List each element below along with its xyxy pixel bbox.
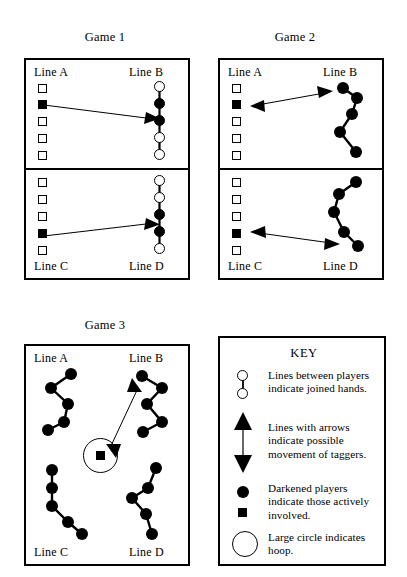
- player-circle-active: [350, 176, 362, 188]
- key-entry-3-text: Darkened players indicate those actively…: [268, 482, 386, 522]
- player-circle-active: [65, 368, 77, 380]
- player-circle-active: [42, 424, 54, 436]
- player-circle-active: [62, 516, 74, 528]
- player-circle-active: [328, 206, 340, 218]
- player-circle-active: [58, 416, 70, 428]
- key-filled-circle-icon: [237, 486, 249, 498]
- player-circle-active: [141, 398, 153, 410]
- game-1-bottom-left-label: Line C: [34, 259, 68, 274]
- player-circle-active: [156, 382, 168, 394]
- player-circle-active: [137, 426, 149, 438]
- player-circle-active: [352, 240, 364, 252]
- game-2-panel: Line A Line B: [218, 58, 384, 280]
- player-circle-active: [46, 500, 58, 512]
- key-filled-square-icon: [238, 508, 247, 517]
- game-2-bottom-left-label: Line C: [228, 259, 262, 274]
- key-entry-1-line-1: Lines between players: [268, 369, 384, 382]
- key-entry-2-line-1: Lines with arrows: [268, 421, 384, 434]
- key-entry-1-text: Lines between players indicate joined ha…: [268, 369, 384, 396]
- player-circle-active: [333, 188, 345, 200]
- player-circle-active: [338, 226, 350, 238]
- player-circle-active: [156, 416, 168, 428]
- player-circle: [154, 175, 165, 186]
- game-1-bottom-links: [26, 60, 192, 282]
- key-entry-3-line-1: Darkened players: [268, 482, 386, 495]
- game-3-panel: Line A Line B Line C Line D: [24, 344, 190, 566]
- key-entry-4-line-1: Large circle indicates: [268, 531, 386, 544]
- diagram-canvas: Game 1 Line A Line B: [0, 0, 407, 577]
- key-open-circle-icon: [237, 370, 248, 381]
- player-circle-active: [46, 464, 58, 476]
- player-circle-active: [45, 382, 57, 394]
- key-entry-4-line-2: hoop.: [268, 544, 386, 557]
- key-entry-3-line-2: indicate those actively: [268, 495, 386, 508]
- player-circle-active: [154, 209, 165, 220]
- player-circle-active: [154, 226, 165, 237]
- player-circle-active: [146, 528, 158, 540]
- game-1-panel: Line A Line B Line: [24, 58, 190, 280]
- player-circle-active: [136, 370, 148, 382]
- key-entry-1-line-2: indicate joined hands.: [268, 382, 384, 395]
- game-2-title: Game 2: [225, 30, 365, 45]
- key-entry-2-line-2: indicate possible: [268, 434, 384, 447]
- key-panel: KEY Lines between players indicate joine…: [218, 336, 386, 566]
- player-circle-active: [46, 482, 58, 494]
- player-circle-active: [140, 508, 152, 520]
- key-entry-3-line-3: involved.: [268, 509, 386, 522]
- hoop-player-square-active: [96, 451, 105, 460]
- game-2-bottom-right-label: Line D: [323, 259, 358, 274]
- player-circle: [154, 243, 165, 254]
- player-circle: [154, 192, 165, 203]
- key-open-circle-icon: [237, 388, 248, 399]
- player-circle-active: [76, 528, 88, 540]
- game-1-title: Game 1: [35, 30, 175, 45]
- player-circle-active: [150, 462, 162, 474]
- key-entry-2-text: Lines with arrows indicate possible move…: [268, 421, 384, 461]
- key-entry-4-text: Large circle indicates hoop.: [268, 531, 386, 558]
- game-3-title: Game 3: [35, 318, 175, 333]
- key-hoop-icon: [232, 531, 258, 557]
- player-circle-active: [142, 482, 154, 494]
- game-1-bottom-right-label: Line D: [129, 259, 164, 274]
- player-circle-active: [126, 492, 138, 504]
- key-entry-2-line-3: movement of taggers.: [268, 448, 384, 461]
- player-circle-active: [62, 398, 74, 410]
